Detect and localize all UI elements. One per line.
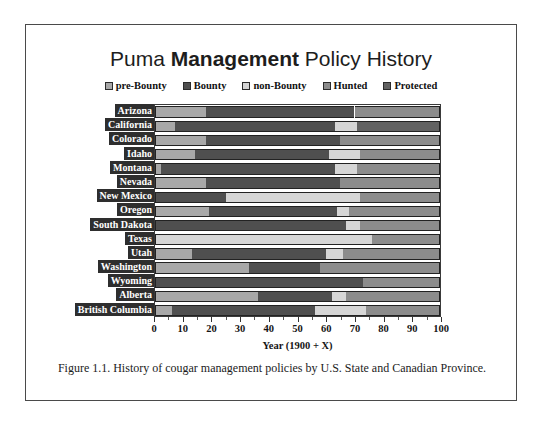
legend-label: Protected xyxy=(394,80,437,91)
x-axis-tick-label: 30 xyxy=(235,323,246,334)
bar-row xyxy=(155,119,440,133)
bar-segment-bounty xyxy=(172,305,315,316)
y-axis-label: Wyoming xyxy=(36,274,154,288)
legend-label: non-Bounty xyxy=(253,80,306,91)
plot-wrapper: ArizonaCaliforniaColoradoIdahoMontanaNev… xyxy=(26,101,518,356)
y-axis-label: Idaho xyxy=(36,147,154,161)
bar-track xyxy=(155,291,440,302)
bar-row xyxy=(155,247,440,261)
x-axis-tick xyxy=(412,317,413,322)
bar-row xyxy=(155,233,440,247)
x-axis-minor-tick xyxy=(369,317,370,320)
bar-row xyxy=(155,190,440,204)
x-axis-tick xyxy=(298,317,299,322)
bar-segment-hunted xyxy=(372,234,440,245)
bar-segment-non-bounty xyxy=(332,291,346,302)
bar-track xyxy=(155,192,440,203)
x-axis-minor-tick xyxy=(398,317,399,320)
bar-segment-bounty xyxy=(209,206,337,217)
x-axis-minor-tick xyxy=(197,317,198,320)
x-axis-minor-tick xyxy=(283,317,284,320)
x-axis-tick-label: 100 xyxy=(433,323,449,334)
y-axis-label-text: New Mexico xyxy=(97,189,154,202)
bar-segment-bounty xyxy=(206,106,354,117)
legend-swatch-icon xyxy=(242,82,250,90)
y-axis-label-text: Idaho xyxy=(124,147,154,160)
bar-segment-hunted xyxy=(320,262,440,273)
bar-row xyxy=(155,176,440,190)
y-axis-label-text: South Dakota xyxy=(90,218,154,231)
y-axis-label-text: Alberta xyxy=(116,288,154,301)
x-axis-tick-label: 90 xyxy=(407,323,418,334)
bar-track xyxy=(155,305,440,316)
x-axis-tick-label: 50 xyxy=(292,323,303,334)
bar-segment-bounty xyxy=(175,121,335,132)
bar-row xyxy=(155,261,440,275)
bar-segment-hunted xyxy=(343,248,440,259)
x-axis-title: Year (1900 + X) xyxy=(154,340,441,351)
bar-segment-non-bounty xyxy=(335,163,358,174)
bar-track xyxy=(155,206,440,217)
bar-row xyxy=(155,105,440,119)
bar-segment-pre-bounty xyxy=(155,121,175,132)
bar-row xyxy=(155,275,440,289)
x-axis-tick-label: 0 xyxy=(151,323,156,334)
x-axis-minor-tick xyxy=(226,317,227,320)
legend-swatch-icon xyxy=(383,82,391,90)
bar-segment-pre-bounty xyxy=(155,106,206,117)
bar-segment-non-bounty xyxy=(337,206,348,217)
bar-segment-non-bounty xyxy=(335,121,358,132)
bar-segment-hunted xyxy=(346,291,440,302)
y-axis-label-text: Utah xyxy=(128,246,154,259)
bar-track xyxy=(155,163,440,174)
figure-caption: Figure 1.1. History of cougar management… xyxy=(26,361,518,376)
y-axis-label: Alberta xyxy=(36,288,154,302)
bar-segment-hunted xyxy=(360,192,440,203)
bar-segment-bounty xyxy=(195,149,329,160)
bar-segment-non-bounty xyxy=(346,220,360,231)
plot-area xyxy=(154,104,441,317)
x-axis-tick xyxy=(240,317,241,322)
x-axis-tick-label: 20 xyxy=(206,323,217,334)
x-axis-minor-tick xyxy=(312,317,313,320)
y-axis-label: South Dakota xyxy=(36,218,154,232)
x-axis-tick-label: 80 xyxy=(378,323,389,334)
bar-segment-non-bounty xyxy=(226,192,360,203)
bar-segment-bounty xyxy=(206,135,340,146)
legend-label: Bounty xyxy=(194,80,227,91)
y-axis-label-text: Arizona xyxy=(115,104,154,117)
bar-segment-bounty xyxy=(206,177,340,188)
y-axis-label: Nevada xyxy=(36,175,154,189)
bar-row xyxy=(155,304,440,318)
bar-track xyxy=(155,149,440,160)
x-axis-minor-tick xyxy=(341,317,342,320)
chart-title: Puma Management Policy History xyxy=(26,47,516,71)
bar-segment-bounty xyxy=(249,262,320,273)
y-axis-label: Colorado xyxy=(36,132,154,146)
x-axis-tick xyxy=(384,317,385,322)
bar-segment-hunted xyxy=(340,177,440,188)
chart-title-part3: Policy History xyxy=(299,47,432,70)
y-axis-label-text: British Columbia xyxy=(75,303,154,316)
x-axis-minor-tick xyxy=(168,317,169,320)
bar-segment-pre-bounty xyxy=(155,135,206,146)
bar-segment-pre-bounty xyxy=(155,262,249,273)
bar-segment-bounty xyxy=(192,248,326,259)
bar-segment-non-bounty xyxy=(155,234,372,245)
chart-title-part2: Management xyxy=(171,47,299,70)
x-axis-minor-tick xyxy=(254,317,255,320)
y-axis-label-text: Nevada xyxy=(117,175,154,188)
legend-swatch-icon xyxy=(183,82,191,90)
bar-segment-bounty xyxy=(258,291,332,302)
legend-item-pre-bounty: pre-Bounty xyxy=(105,80,167,91)
x-axis-tick xyxy=(211,317,212,322)
figure-frame: Puma Management Policy History pre-Bount… xyxy=(25,24,517,401)
bar-row xyxy=(155,204,440,218)
x-axis-tick xyxy=(441,317,442,322)
bar-segment-bounty xyxy=(155,192,226,203)
x-axis-tick xyxy=(326,317,327,322)
y-axis-label: Washington xyxy=(36,260,154,274)
bar-track xyxy=(155,277,440,288)
y-axis-label-text: Washington xyxy=(98,260,154,273)
x-axis-tick-label: 10 xyxy=(177,323,188,334)
